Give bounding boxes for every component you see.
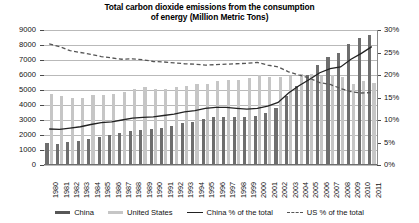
y-tick-label-left: 6000	[0, 71, 36, 79]
legend-item[interactable]: China % of the total	[187, 208, 273, 217]
x-tick-label: 1992	[177, 182, 185, 198]
legend-label: United States	[127, 208, 173, 217]
x-tick-label: 1983	[83, 182, 91, 198]
x-tick-label: 1985	[104, 182, 112, 198]
y-tick-label-right: 25%	[384, 49, 414, 57]
x-tick-label: 1999	[250, 182, 258, 198]
x-tick-label: 1987	[125, 182, 133, 198]
right-axis-line	[377, 30, 378, 165]
legend-swatch-united-states	[108, 211, 123, 214]
x-tick-label: 2003	[292, 182, 300, 198]
x-tick-label: 1981	[63, 182, 71, 198]
x-tick-label: 2008	[344, 182, 352, 198]
x-tick-label: 1982	[73, 182, 81, 198]
y-tick-label-left: 9000	[0, 26, 36, 34]
legend-swatch-china	[55, 211, 70, 214]
y-tick-mark-right	[377, 165, 381, 166]
chart-title-line-1: Total carbon dioxide emissions from the …	[104, 2, 314, 12]
x-tick-label: 2009	[354, 182, 362, 198]
y-tick-label-right: 20%	[384, 71, 414, 79]
x-tick-label: 1990	[156, 182, 164, 198]
plot-area	[44, 30, 377, 165]
y-tick-label-left: 8000	[0, 41, 36, 49]
x-tick-label: 1993	[187, 182, 195, 198]
x-tick-label: 2002	[281, 182, 289, 198]
x-tick-label: 1996	[219, 182, 227, 198]
y-tick-label-right: 0%	[384, 161, 414, 169]
x-tick-label: 1986	[115, 182, 123, 198]
y-tick-label-right: 30%	[384, 26, 414, 34]
x-axis-line	[44, 164, 377, 165]
y-tick-label-left: 4000	[0, 101, 36, 109]
line-us-percent	[49, 44, 372, 93]
legend-swatch-china-percent	[187, 212, 203, 213]
chart-legend: ChinaUnited StatesChina % of the totalUS…	[0, 205, 419, 219]
line-china-percent	[49, 47, 372, 130]
x-tick-label: 2005	[312, 182, 320, 198]
x-tick-label: 2007	[333, 182, 341, 198]
legend-label: China	[74, 208, 94, 217]
x-tick-label: 1980	[52, 182, 60, 198]
x-tick-label: 2011	[375, 183, 383, 198]
y-tick-label-left: 2000	[0, 131, 36, 139]
y-tick-label-right: 10%	[384, 116, 414, 124]
y-tick-label-right: 15%	[384, 94, 414, 102]
x-tick-label: 2000	[260, 182, 268, 198]
x-tick-label: 2001	[271, 182, 279, 198]
legend-label: US % of the total	[307, 208, 364, 217]
y-tick-label-left: 7000	[0, 56, 36, 64]
chart-container: Total carbon dioxide emissions from the …	[0, 0, 419, 223]
y-tick-label-left: 5000	[0, 86, 36, 94]
x-tick-label: 2006	[323, 182, 331, 198]
y-tick-label-right: 5%	[384, 139, 414, 147]
x-tick-label: 1988	[135, 182, 143, 198]
x-tick-label: 2004	[302, 182, 310, 198]
line-series-group	[44, 30, 377, 165]
x-tick-label: 1995	[208, 182, 216, 198]
legend-item[interactable]: United States	[108, 208, 173, 217]
y-tick-label-left: 1000	[0, 146, 36, 154]
x-tick-label: 1984	[94, 182, 102, 198]
legend-item[interactable]: US % of the total	[287, 208, 364, 217]
x-axis-labels: 1980198119821983198419851986198719881989…	[44, 168, 377, 202]
legend-item[interactable]: China	[55, 208, 94, 217]
x-tick-label: 1989	[146, 182, 154, 198]
y-tick-label-left: 0	[0, 161, 36, 169]
x-tick-label: 1991	[167, 182, 175, 198]
legend-label: China % of the total	[207, 208, 273, 217]
x-tick-label: 1997	[229, 182, 237, 198]
y-tick-label-left: 3000	[0, 116, 36, 124]
chart-title-line-2: of energy (Million Metric Tons)	[151, 12, 269, 22]
x-tick-label: 1994	[198, 182, 206, 198]
x-tick-label: 2010	[364, 182, 372, 198]
chart-title: Total carbon dioxide emissions from the …	[0, 2, 419, 22]
x-tick-label: 1998	[240, 182, 248, 198]
legend-swatch-us-percent	[287, 212, 303, 213]
gridline	[44, 165, 377, 166]
